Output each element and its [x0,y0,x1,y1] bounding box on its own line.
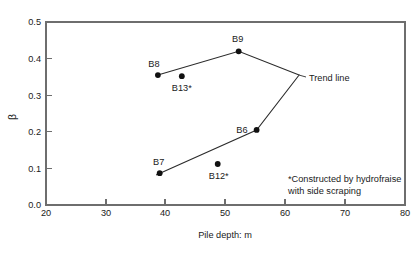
chart-figure: 20 30 40 50 60 70 80 0.0 0.1 0.2 0.3 0.4… [0,0,419,253]
data-point-b13-star [179,73,185,79]
chart-svg: 20 30 40 50 60 70 80 0.0 0.1 0.2 0.3 0.4… [0,0,419,253]
data-point-label-b7: B7 [153,157,164,167]
y-axis-tick-labels: 0.0 0.1 0.2 0.3 0.4 0.5 [28,17,41,210]
x-tick-label-3: 50 [220,208,230,218]
trend-line-label: Trend line [309,73,350,83]
data-point-label-b8: B8 [148,59,159,69]
data-point-b8 [155,72,161,78]
data-point-b7 [157,170,163,176]
y-tick-label-2: 0.2 [28,127,41,137]
data-point-label-b9: B9 [232,34,243,44]
y-axis-title: β [6,114,18,120]
x-tick-label-1: 30 [101,208,111,218]
footnote-line-2: with side scraping [287,186,361,196]
data-points-group: B8B13*B9B6B12*B7 [148,34,259,181]
y-axis-ticks [46,59,52,169]
y-tick-label-4: 0.4 [28,54,41,64]
data-point-b9 [236,48,242,54]
x-tick-label-4: 60 [280,208,290,218]
trend-line-path [156,51,299,175]
data-point-label-b6: B6 [236,125,247,135]
footnote: *Constructed by hydrofraise with side sc… [287,174,401,196]
x-tick-label-5: 70 [340,208,350,218]
y-tick-label-5: 0.5 [28,17,41,27]
x-axis-ticks [106,199,345,205]
data-point-b6 [254,127,260,133]
trend-line-leader [299,75,306,77]
x-tick-label-2: 40 [160,208,170,218]
y-tick-label-3: 0.3 [28,91,41,101]
x-tick-label-6: 80 [400,208,410,218]
data-point-label-b13-star: B13* [172,83,192,93]
x-tick-label-0: 20 [41,208,51,218]
footnote-line-1: *Constructed by hydrofraise [288,174,401,184]
x-axis-title: Pile depth: m [198,230,252,240]
data-point-label-b12-star: B12* [209,171,229,181]
y-tick-label-0: 0.0 [28,200,41,210]
x-axis-tick-labels: 20 30 40 50 60 70 80 [41,208,410,218]
data-point-b12-star [215,161,221,167]
y-tick-label-1: 0.1 [28,164,41,174]
